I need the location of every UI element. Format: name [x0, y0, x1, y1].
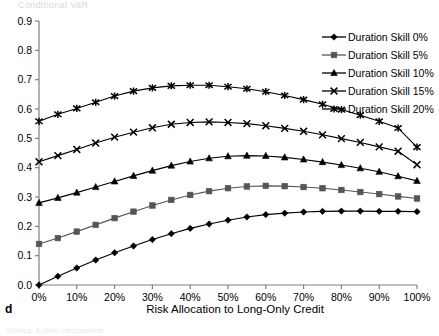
legend-item-4[interactable]: Duration Skill 20% — [321, 100, 437, 118]
y-axis-tick-label: 0.1 — [17, 249, 32, 261]
y-axis-tick-label: 0.0 — [17, 279, 32, 291]
data-point-marker-square — [150, 203, 156, 209]
data-point-marker-asterisk — [413, 144, 420, 151]
legend-item-3[interactable]: Duration Skill 15% — [321, 82, 437, 100]
x-axis-tick-label: 80% — [331, 291, 352, 303]
data-point-marker-diamond — [300, 209, 306, 215]
legend-item-label: Duration Skill 15% — [348, 84, 434, 98]
data-point-marker-square — [74, 229, 80, 235]
data-point-marker-square — [339, 187, 345, 193]
legend-item-label: Duration Skill 5% — [348, 48, 428, 62]
series-2 — [36, 152, 421, 205]
legend-marker-diamond-icon — [321, 30, 347, 44]
x-axis-tick-label: 100% — [404, 291, 431, 303]
data-point-marker-asterisk — [92, 99, 99, 106]
data-point-marker-asterisk — [111, 92, 118, 99]
data-point-marker-diamond — [376, 208, 382, 214]
data-point-marker-square — [376, 191, 382, 197]
data-point-marker-square — [169, 197, 175, 203]
data-point-marker-square — [244, 184, 250, 190]
data-point-marker-square — [282, 183, 288, 189]
data-point-marker-diamond — [55, 273, 61, 279]
legend-marker-asterisk-icon — [321, 102, 347, 116]
data-point-marker-square — [263, 183, 269, 189]
legend-item-2[interactable]: Duration Skill 10% — [321, 64, 437, 82]
data-point-marker-square — [206, 188, 212, 194]
data-point-marker-diamond — [282, 210, 288, 216]
y-axis-tick-label: 0.7 — [17, 73, 32, 85]
data-point-marker-cross — [92, 140, 99, 147]
legend-item-label: Duration Skill 20% — [348, 102, 434, 116]
x-axis-tick-label: 10% — [66, 291, 87, 303]
legend-marker-triangle-icon — [321, 66, 347, 80]
y-axis-tick-label: 0.8 — [17, 44, 32, 56]
legend-item-0[interactable]: Duration Skill 0% — [321, 28, 437, 46]
y-axis-tick-label: 0.6 — [17, 103, 32, 115]
data-point-marker-diamond — [395, 208, 401, 214]
data-point-marker-square — [36, 241, 42, 247]
data-point-marker-cross — [414, 161, 421, 168]
data-point-marker-cross — [55, 152, 62, 159]
y-axis-tick-label: 0.5 — [17, 132, 32, 144]
chart-figure: Conditional VaR 0.00.10.20.30.40.50.60.7… — [0, 0, 439, 336]
data-point-marker-square — [331, 52, 337, 58]
data-point-marker-diamond — [93, 257, 99, 263]
data-point-marker-diamond — [74, 265, 80, 271]
x-axis-tick-label: 40% — [180, 291, 201, 303]
data-point-marker-asterisk — [35, 118, 42, 125]
data-point-marker-cross — [73, 146, 80, 153]
x-axis-title: Risk Allocation to Long-Only Credit — [120, 303, 350, 315]
legend-marker-square-icon — [321, 48, 347, 62]
data-point-marker-diamond — [357, 208, 363, 214]
series-3 — [36, 119, 421, 169]
data-point-marker-square — [320, 185, 326, 191]
faint-footer-text: Source: Author calculations — [6, 326, 196, 334]
data-point-marker-asterisk — [395, 124, 402, 131]
x-axis-tick-label: 30% — [142, 291, 163, 303]
x-axis-tick-label: 90% — [369, 291, 390, 303]
data-point-marker-diamond — [111, 250, 117, 256]
x-axis-tick-label: 50% — [217, 291, 238, 303]
data-point-marker-diamond — [206, 221, 212, 227]
data-point-marker-diamond — [338, 208, 344, 214]
series-0 — [36, 208, 420, 288]
data-point-marker-square — [112, 215, 118, 221]
data-point-marker-asterisk — [54, 111, 61, 118]
x-axis-tick-label: 60% — [255, 291, 276, 303]
data-point-marker-square — [225, 185, 231, 191]
data-point-marker-diamond — [149, 236, 155, 242]
data-point-marker-square — [93, 222, 99, 228]
chart-legend: Duration Skill 0%Duration Skill 5%Durati… — [321, 28, 437, 118]
legend-item-1[interactable]: Duration Skill 5% — [321, 46, 437, 64]
series-1 — [36, 183, 420, 247]
legend-marker-cross-icon — [321, 84, 347, 98]
data-point-marker-diamond — [130, 243, 136, 249]
x-axis-tick-label: 20% — [104, 291, 125, 303]
data-point-marker-square — [131, 209, 137, 215]
legend-item-label: Duration Skill 0% — [348, 30, 428, 44]
data-point-marker-diamond — [414, 208, 420, 214]
series-line — [39, 156, 417, 203]
data-point-marker-square — [358, 189, 364, 195]
data-point-marker-cross — [111, 134, 118, 141]
y-axis-tick-label: 0.2 — [17, 220, 32, 232]
data-point-marker-diamond — [36, 282, 42, 288]
data-point-marker-square — [187, 192, 193, 198]
y-axis-tick-label: 0.4 — [17, 161, 32, 173]
y-axis-tick-label: 0.3 — [17, 191, 32, 203]
data-point-marker-diamond — [168, 230, 174, 236]
legend-item-label: Duration Skill 10% — [348, 66, 434, 80]
x-axis-tick-label: 0% — [31, 291, 46, 303]
y-axis-tick-label: 0.9 — [17, 15, 32, 27]
data-point-marker-square — [395, 194, 401, 200]
data-point-marker-asterisk — [73, 105, 80, 112]
data-point-marker-asterisk — [376, 118, 383, 125]
data-point-marker-square — [414, 196, 420, 202]
data-point-marker-diamond — [319, 208, 325, 214]
data-point-marker-diamond — [331, 34, 337, 40]
data-point-marker-diamond — [244, 214, 250, 220]
x-axis-tick-label: 70% — [293, 291, 314, 303]
data-point-marker-square — [301, 184, 307, 190]
data-point-marker-diamond — [225, 217, 231, 223]
data-point-marker-square — [55, 235, 61, 241]
